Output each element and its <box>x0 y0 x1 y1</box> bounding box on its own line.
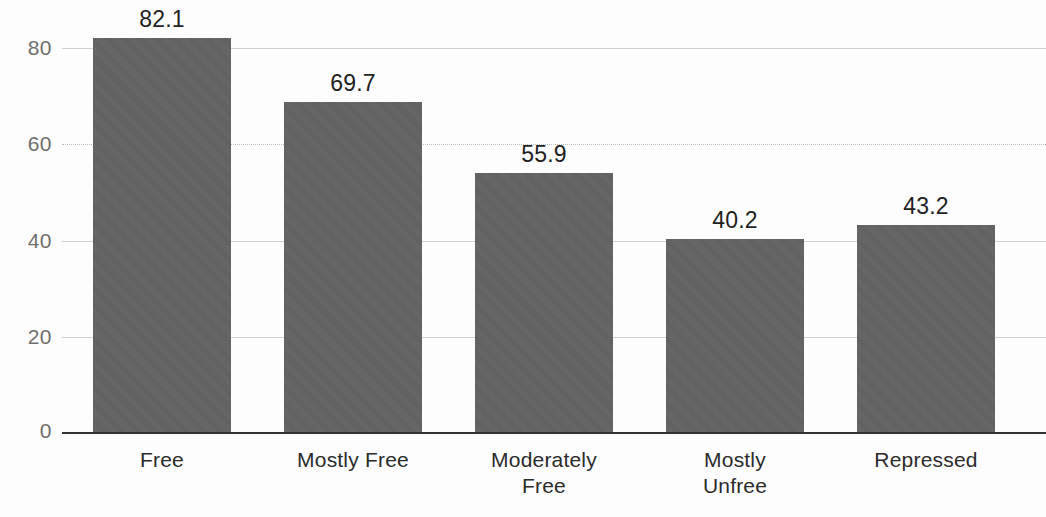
category-label-free: Free <box>140 447 184 473</box>
bar-free[interactable] <box>93 38 231 432</box>
bar-mostly-free[interactable] <box>284 102 422 432</box>
bar-repressed[interactable] <box>857 225 995 432</box>
value-label-moderately-free: 55.9 <box>521 141 567 168</box>
bar-mostly-unfree[interactable] <box>666 239 804 432</box>
x-axis-line <box>62 432 1046 434</box>
category-label-moderately-free: Moderately Free <box>491 447 597 498</box>
y-axis-tick-40: 40 <box>0 229 52 253</box>
value-label-free: 82.1 <box>139 6 185 33</box>
value-label-repressed: 43.2 <box>903 193 949 220</box>
category-label-mostly-unfree: Mostly Unfree <box>703 447 767 498</box>
category-label-mostly-free: Mostly Free <box>297 447 409 473</box>
plot-area: 80 60 40 20 0 82.1 69.7 55.9 40.2 43.2 <box>0 0 1046 433</box>
bar-chart: 80 60 40 20 0 82.1 69.7 55.9 40.2 43.2 F… <box>0 0 1046 517</box>
y-axis-tick-0: 0 <box>0 419 52 443</box>
y-axis-tick-60: 60 <box>0 132 52 156</box>
value-label-mostly-unfree: 40.2 <box>712 207 758 234</box>
value-label-mostly-free: 69.7 <box>330 70 376 97</box>
y-axis-tick-80: 80 <box>0 36 52 60</box>
y-axis-tick-20: 20 <box>0 325 52 349</box>
category-label-repressed: Repressed <box>874 447 977 473</box>
bar-moderately-free[interactable] <box>475 173 613 432</box>
